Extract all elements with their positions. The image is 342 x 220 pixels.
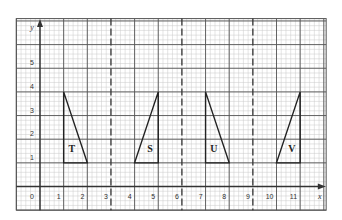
y-tick-label: 4 (30, 83, 34, 90)
triangle-label: S (147, 143, 153, 154)
coordinate-grid-diagram: 01234567891011x12345y TSUV (0, 0, 342, 220)
y-axis-arrow-icon (37, 19, 43, 27)
triangle-label: V (288, 143, 296, 154)
x-tick-label: 6 (175, 193, 179, 200)
triangle-label: U (210, 143, 217, 154)
x-tick-label: 2 (80, 193, 84, 200)
grid-border (16, 19, 326, 211)
y-tick-label: 1 (30, 154, 34, 161)
triangle-t: T (64, 92, 88, 163)
x-tick-label: 3 (104, 193, 108, 200)
x-axis-label: x (317, 192, 322, 201)
major-gridlines (16, 19, 326, 211)
y-tick-label: 3 (30, 107, 34, 114)
x-tick-label: 8 (222, 193, 226, 200)
y-axis-label: y (29, 23, 34, 32)
triangle-s: S (135, 92, 159, 163)
x-tick-label: 4 (128, 193, 132, 200)
triangle-label: T (69, 143, 76, 154)
x-tick-label: 9 (246, 193, 250, 200)
x-tick-label: 7 (199, 193, 203, 200)
triangle-u: U (206, 92, 230, 163)
triangle-outline (64, 92, 88, 163)
x-tick-label: 5 (151, 193, 155, 200)
triangle-v: V (277, 92, 301, 163)
minor-gridlines (16, 19, 326, 211)
axes (16, 19, 325, 210)
x-tick-label: 1 (57, 193, 61, 200)
origin-label: 0 (30, 193, 34, 200)
x-axis-arrow-icon (318, 184, 326, 190)
x-tick-label: 11 (290, 193, 297, 200)
grid-plot: 01234567891011x12345y TSUV (0, 0, 342, 220)
y-tick-label: 2 (30, 130, 34, 137)
y-tick-label: 5 (30, 59, 34, 66)
x-tick-label: 10 (266, 193, 274, 200)
